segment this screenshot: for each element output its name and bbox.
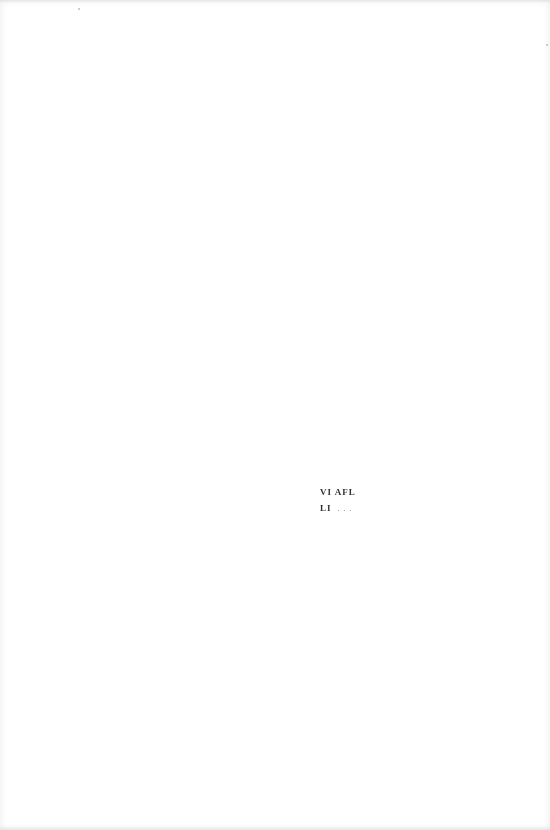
fragment-line-2: LI. . . (320, 500, 356, 517)
fragment-line-2-dots: . . . (338, 504, 353, 513)
scan-speck (546, 44, 548, 46)
fragment-line-1: VI AFL (320, 484, 356, 500)
fragment-line-2-text: LI (320, 503, 332, 513)
scanned-page: VI AFL LI. . . (0, 0, 550, 830)
scan-speck (78, 8, 80, 10)
scan-edge-bottom (0, 826, 550, 830)
scan-edge-top (0, 0, 550, 3)
fragment-line-1-text: VI AFL (320, 487, 356, 497)
illegible-text-fragment: VI AFL LI. . . (320, 484, 356, 517)
